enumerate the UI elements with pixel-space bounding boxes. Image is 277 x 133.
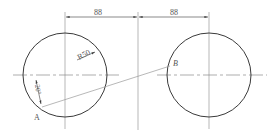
technical-drawing: 88 88 R50 20° A B xyxy=(0,0,277,133)
point-b-label: B xyxy=(173,59,178,68)
angle-label: 20° xyxy=(33,84,43,95)
point-a-label: A xyxy=(34,113,40,122)
radius-label: R50 xyxy=(76,48,92,62)
line-a-to-b xyxy=(42,66,170,107)
dimension-label-right: 88 xyxy=(170,8,178,17)
dimension-label-left: 88 xyxy=(94,8,102,17)
